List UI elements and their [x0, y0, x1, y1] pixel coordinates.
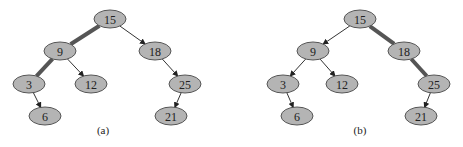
diagram-caption: (a) [97, 124, 110, 137]
node-label: 12 [85, 78, 97, 92]
tree-node-9: 9 [44, 42, 76, 60]
tree-diagrams: 1591831225621(a)1591831225621(b) [0, 0, 463, 147]
node-label: 3 [280, 78, 286, 92]
tree-node-9: 9 [297, 42, 329, 60]
tree-node-6: 6 [29, 107, 61, 125]
tree-node-15: 15 [94, 10, 126, 28]
node-label: 18 [398, 45, 410, 59]
tree-node-6: 6 [281, 107, 313, 125]
node-label: 15 [104, 13, 116, 27]
edge-18-25 [162, 59, 177, 76]
edge-9-12 [320, 59, 335, 76]
node-label: 12 [336, 78, 348, 92]
tree-node-12: 12 [326, 75, 358, 93]
tree-node-21: 21 [155, 107, 187, 125]
tree-node-15: 15 [344, 10, 376, 28]
tree-node-25: 25 [169, 75, 201, 93]
tree-node-3: 3 [13, 75, 45, 93]
highlighted-edge-9-3 [36, 59, 52, 76]
node-label: 25 [428, 78, 440, 92]
edge-25-21 [425, 93, 431, 107]
node-label: 18 [149, 45, 161, 59]
edge-3-6 [287, 93, 293, 108]
tree-node-12: 12 [75, 75, 107, 93]
tree-a: 1591831225621(a) [13, 10, 201, 137]
tree-node-21: 21 [405, 107, 437, 125]
node-label: 6 [294, 110, 300, 124]
edge-9-12 [67, 59, 83, 76]
tree-node-25: 25 [418, 75, 450, 93]
tree-node-18: 18 [139, 42, 171, 60]
node-label: 15 [354, 13, 366, 27]
tree-node-3: 3 [267, 75, 299, 93]
node-label: 21 [165, 110, 177, 124]
node-label: 3 [26, 78, 32, 92]
edge-25-21 [175, 93, 181, 108]
node-label: 6 [42, 110, 48, 124]
node-label: 9 [57, 45, 63, 59]
highlighted-edge-15-9 [71, 26, 100, 44]
highlighted-edge-18-25 [411, 59, 426, 76]
node-label: 9 [310, 45, 316, 59]
tree-node-18: 18 [388, 42, 420, 60]
node-label: 21 [415, 110, 427, 124]
node-label: 25 [179, 78, 191, 92]
diagram-caption: (b) [354, 124, 367, 137]
edge-3-6 [33, 93, 40, 108]
edge-15-9 [323, 26, 350, 44]
edge-9-3 [290, 59, 305, 76]
edge-15-18 [120, 26, 145, 44]
highlighted-edge-15-18 [370, 26, 394, 44]
tree-b: 1591831225621(b) [267, 10, 450, 137]
